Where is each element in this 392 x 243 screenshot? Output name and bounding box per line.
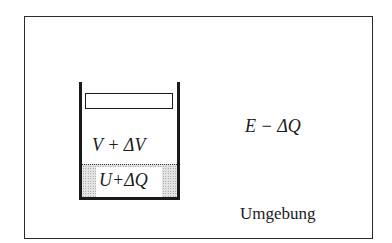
internal-energy-label: U+ΔQ <box>99 170 148 191</box>
piston <box>85 93 173 109</box>
surroundings-energy-label: E − ΔQ <box>245 116 301 137</box>
container-floor <box>79 197 180 200</box>
volume-label: V + ΔV <box>92 135 145 156</box>
surroundings-name-label: Umgebung <box>240 204 316 224</box>
surroundings-frame <box>24 16 373 239</box>
container-right-wall <box>177 82 180 200</box>
